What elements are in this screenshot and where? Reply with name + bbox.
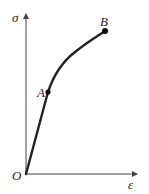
y-axis-label: σ (12, 10, 19, 25)
origin-label: O (12, 168, 22, 183)
x-axis-label: ε (128, 177, 134, 192)
stress-strain-curve (26, 31, 105, 174)
point-b-label: B (100, 14, 108, 29)
point-a-label: A (36, 85, 45, 100)
point-a-marker (45, 89, 50, 94)
stress-strain-diagram: σ ε O A B (0, 0, 149, 194)
